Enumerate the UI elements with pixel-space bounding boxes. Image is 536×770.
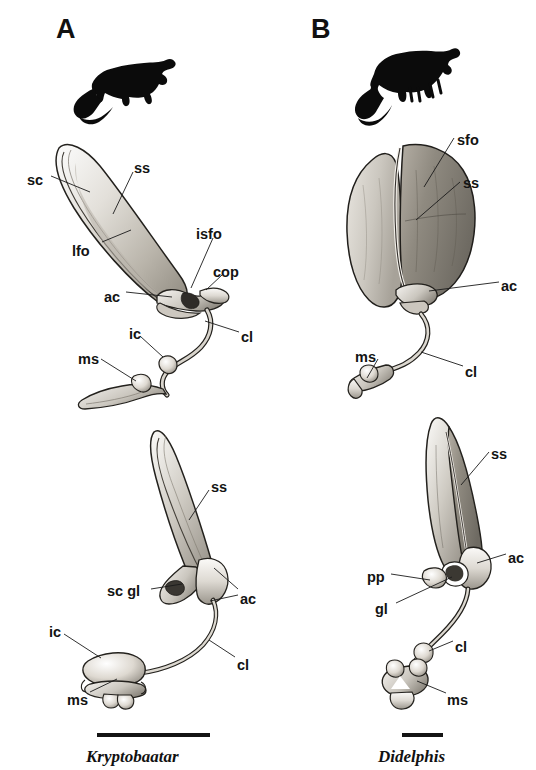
label-sc-gl: sc gl <box>107 584 140 599</box>
label-ac-lower: ac <box>240 592 256 607</box>
label-ss-b-lower: ss <box>491 447 507 462</box>
label-sfo: sfo <box>457 133 479 148</box>
scale-bar-didelphis <box>402 733 443 737</box>
label-cl-b: cl <box>465 365 477 380</box>
label-cop: cop <box>213 265 239 280</box>
label-ic: ic <box>129 327 141 342</box>
specimen-a-lower <box>81 431 228 709</box>
label-ss-b: ss <box>463 176 479 191</box>
label-sc: sc <box>27 173 43 188</box>
label-cl-b-lower: cl <box>455 640 467 655</box>
label-cl: cl <box>241 330 253 345</box>
label-ms-b-lower: ms <box>447 693 468 708</box>
label-gl: gl <box>375 602 388 617</box>
label-ic-lower: ic <box>49 625 61 640</box>
taxon-caption-didelphis: Didelphis <box>378 748 445 765</box>
label-isfo: isfo <box>196 227 222 242</box>
label-ss-lower: ss <box>211 480 227 495</box>
label-ac-b-lower: ac <box>508 551 524 566</box>
scale-bar-kryptobaatar <box>97 733 210 737</box>
panel-letter-a: A <box>56 16 76 43</box>
label-ac: ac <box>104 290 120 305</box>
label-ms-b: ms <box>355 350 376 365</box>
taxon-caption-kryptobaatar: Kryptobaatar <box>86 748 179 765</box>
label-ms: ms <box>78 352 99 367</box>
label-pp: pp <box>367 570 385 585</box>
label-lfo: lfo <box>72 244 90 259</box>
label-cl-lower: cl <box>237 658 249 673</box>
figure-canvas: A B sc ss lfo isfo cop ac ic cl ms ss sc… <box>0 0 536 770</box>
panel-letter-b: B <box>311 16 331 43</box>
opossum-silhouette <box>355 48 460 126</box>
label-ss: ss <box>134 161 150 176</box>
label-ac-b: ac <box>501 279 517 294</box>
specimen-b-lower <box>382 418 491 709</box>
specimen-a-upper <box>56 145 229 409</box>
label-ms-lower: ms <box>67 693 88 708</box>
multituberculate-silhouette <box>74 59 176 124</box>
